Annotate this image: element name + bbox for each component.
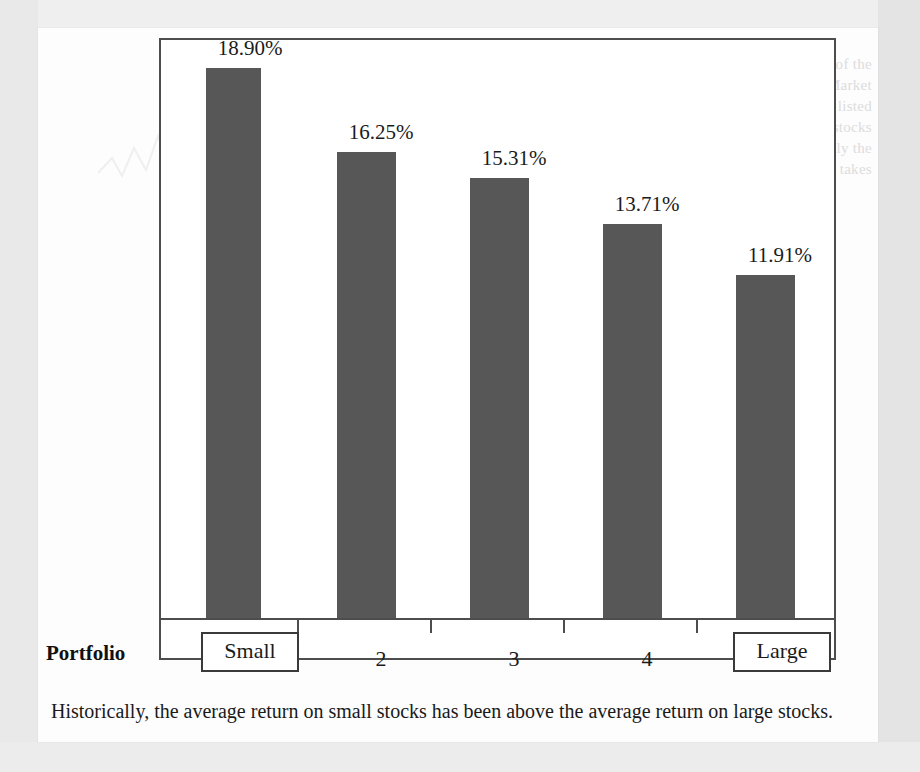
bar-small [206, 68, 261, 618]
category-label-large: Large [733, 632, 831, 672]
bar-value-label: 15.31% [466, 146, 562, 171]
bar-large [736, 275, 795, 618]
axis-title-portfolio: Portfolio [46, 641, 154, 666]
chart-frame: 18.90% 16.25% 15.31% 13.71% 11.91% [159, 38, 836, 660]
page-margin-top [0, 0, 920, 28]
bar-value-label: 18.90% [202, 36, 298, 61]
bar-2 [337, 152, 396, 618]
page-margin-bottom [0, 742, 920, 772]
figure-slide: rows of the relly Market mall listed sma… [38, 28, 878, 742]
category-label-small: Small [201, 632, 299, 672]
category-label-4: 4 [600, 640, 694, 680]
page-margin-right [878, 0, 920, 772]
scanned-page: rows of the relly Market mall listed sma… [0, 0, 920, 772]
plot-area: 18.90% 16.25% 15.31% 13.71% 11.91% [161, 40, 834, 618]
figure-caption: Historically, the average return on smal… [51, 698, 866, 724]
bar-value-label: 16.25% [333, 120, 429, 145]
category-label-row: Small 2 3 4 Large [161, 620, 834, 658]
bar-value-label: 11.91% [732, 243, 828, 268]
category-label-2: 2 [334, 640, 428, 680]
bar-3 [470, 178, 529, 618]
bar-value-label: 13.71% [599, 192, 695, 217]
bar-4 [603, 224, 662, 618]
category-label-3: 3 [467, 640, 561, 680]
page-margin-left [0, 0, 38, 772]
